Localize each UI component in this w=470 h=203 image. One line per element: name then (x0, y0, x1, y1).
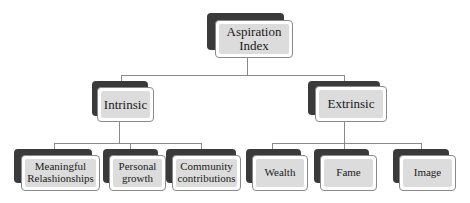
connector-extrinsic-horizontal (272, 143, 422, 144)
node-box: Extrinsic (315, 86, 387, 122)
node-box: Meaningful Relashionships (21, 155, 100, 191)
connector-intrinsic-down (119, 122, 120, 144)
node-label-line-1: Aspiration (227, 25, 282, 39)
node-box: Intrinsic (97, 87, 154, 122)
node-label: Image (403, 159, 452, 187)
node-label-line-2: Relashionships (27, 173, 94, 185)
node-label-line-2: Index (239, 39, 269, 53)
node-label: Extrinsic (319, 90, 383, 118)
connector-root-down (247, 57, 248, 76)
node-label-line-2: contributions (177, 173, 235, 185)
node-label: Intrinsic (101, 91, 150, 118)
connector-intrinsic-horizontal (54, 143, 202, 144)
node-box: Image (399, 155, 456, 191)
connector-level1-horizontal (121, 75, 345, 76)
node-box: Fame (320, 155, 377, 191)
node-box: Wealth (252, 155, 308, 191)
node-box: Community contributions (172, 155, 241, 191)
node-label-line-2: growth (122, 173, 153, 185)
node-label: Wealth (256, 159, 304, 187)
node-box: Aspiration Index (215, 20, 293, 58)
node-box: Personal growth (109, 155, 166, 191)
connector-extrinsic-down (344, 121, 345, 144)
node-label: Fame (324, 159, 373, 187)
